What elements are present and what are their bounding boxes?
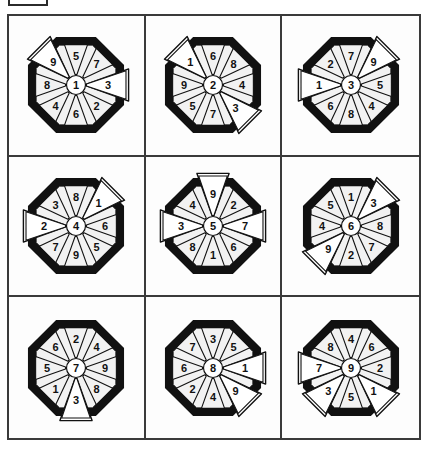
grid-cell-wheel-4[interactable]: 816597234	[9, 157, 146, 298]
petal-number-w: 5	[44, 362, 50, 374]
petal-number-e: 6	[102, 220, 108, 232]
petal-number-e: 8	[377, 220, 383, 232]
center-number: 3	[348, 79, 354, 91]
grid-cell-wheel-9[interactable]: 462153789	[282, 297, 419, 438]
petal-number-nw: 4	[189, 199, 196, 211]
petal-number-w: 7	[316, 362, 322, 374]
octagon-wheel-8[interactable]: 351942678	[157, 312, 269, 424]
petal-number-nw: 2	[327, 59, 333, 71]
petal-number-nw: 8	[327, 341, 333, 353]
petal-number-n: 9	[210, 188, 216, 200]
petal-number-e: 4	[239, 79, 246, 91]
petal-number-n: 7	[348, 50, 354, 62]
center-number: 6	[348, 220, 354, 232]
petal-number-ne: 9	[370, 57, 376, 69]
petal-number-w: 8	[44, 79, 50, 91]
petal-number-n: 2	[73, 333, 79, 345]
petal-number-s: 6	[73, 108, 79, 120]
petal-number-sw: 4	[53, 100, 60, 112]
petal-number-se: 2	[94, 100, 100, 112]
petal-number-w: 2	[41, 220, 47, 232]
diagram-grid: 5732648916843759127954861238165972349276…	[7, 14, 421, 440]
octagon-wheel-6[interactable]: 138729456	[295, 170, 407, 282]
petal-number-n: 3	[210, 333, 216, 345]
petal-number-sw: 1	[53, 382, 59, 394]
octagon-wheel-9[interactable]: 462153789	[295, 312, 407, 424]
octagon-wheel-5[interactable]: 927618345	[157, 170, 269, 282]
petal-number-ne: 3	[370, 197, 376, 209]
petal-number-nw: 5	[327, 199, 333, 211]
grid-cell-wheel-8[interactable]: 351942678	[146, 297, 283, 438]
petal-number-n: 4	[348, 333, 355, 345]
grid-cell-wheel-1[interactable]: 573264891	[9, 16, 146, 157]
octagon-wheel-svg: 816597234	[20, 170, 132, 282]
octagon-wheel-svg: 684375912	[157, 29, 269, 141]
petal-number-s: 8	[348, 108, 354, 120]
petal-number-e: 3	[105, 79, 111, 91]
petal-number-se: 8	[94, 382, 100, 394]
petal-number-e: 1	[242, 362, 248, 374]
grid-cell-wheel-6[interactable]: 138729456	[282, 157, 419, 298]
petal-number-s: 5	[348, 391, 354, 403]
petal-number-sw: 2	[189, 382, 195, 394]
grid-cell-wheel-2[interactable]: 684375912	[146, 16, 283, 157]
center-number: 4	[73, 220, 80, 232]
octagon-wheel-svg: 795486123	[295, 29, 407, 141]
petal-number-s: 3	[73, 394, 79, 406]
petal-number-se: 4	[368, 100, 375, 112]
petal-number-sw: 5	[189, 100, 195, 112]
petal-number-nw: 6	[53, 341, 59, 353]
petal-number-ne: 8	[230, 59, 236, 71]
petal-number-s: 9	[73, 249, 79, 261]
petal-number-w: 6	[181, 362, 187, 374]
petal-number-n: 1	[348, 191, 354, 203]
center-number: 5	[210, 220, 216, 232]
petal-number-e: 9	[102, 362, 108, 374]
grid-cell-wheel-5[interactable]: 927618345	[146, 157, 283, 298]
petal-number-s: 1	[210, 249, 216, 261]
petal-number-w: 3	[178, 220, 184, 232]
petal-number-n: 6	[210, 50, 216, 62]
petal-number-se: 5	[94, 240, 100, 252]
petal-number-se: 3	[233, 102, 239, 114]
petal-number-ne: 6	[368, 341, 374, 353]
petal-number-sw: 7	[53, 240, 59, 252]
petal-number-sw: 8	[189, 240, 195, 252]
petal-number-e: 5	[377, 79, 383, 91]
corner-marker-box	[8, 0, 48, 6]
octagon-wheel-1[interactable]: 573264891	[20, 29, 132, 141]
petal-number-n: 5	[73, 50, 79, 62]
petal-number-ne: 5	[230, 341, 236, 353]
center-number: 1	[73, 79, 79, 91]
petal-number-ne: 4	[94, 341, 101, 353]
petal-number-s: 4	[210, 391, 217, 403]
center-number: 9	[348, 362, 354, 374]
octagon-wheel-svg: 351942678	[157, 312, 269, 424]
petal-number-nw: 3	[53, 199, 59, 211]
octagon-wheel-svg: 573264891	[20, 29, 132, 141]
petal-number-n: 8	[73, 191, 79, 203]
petal-number-ne: 1	[96, 197, 102, 209]
grid-cell-wheel-7[interactable]: 249831567	[9, 297, 146, 438]
octagon-wheel-4[interactable]: 816597234	[20, 170, 132, 282]
petal-number-se: 7	[368, 240, 374, 252]
petal-number-ne: 7	[94, 59, 100, 71]
octagon-wheel-7[interactable]: 249831567	[20, 312, 132, 424]
octagon-wheel-2[interactable]: 684375912	[157, 29, 269, 141]
petal-number-sw: 9	[325, 243, 331, 255]
petal-number-sw: 6	[327, 100, 333, 112]
petal-number-w: 9	[181, 79, 187, 91]
grid-cell-wheel-3[interactable]: 795486123	[282, 16, 419, 157]
petal-number-s: 2	[348, 249, 354, 261]
petal-number-nw: 9	[51, 57, 57, 69]
petal-number-e: 2	[377, 362, 383, 374]
petal-number-s: 7	[210, 108, 216, 120]
petal-number-nw: 1	[187, 57, 193, 69]
center-number: 7	[73, 362, 79, 374]
center-number: 2	[210, 79, 216, 91]
octagon-wheel-svg: 138729456	[295, 170, 407, 282]
octagon-wheel-3[interactable]: 795486123	[295, 29, 407, 141]
octagon-wheel-svg: 927618345	[157, 170, 269, 282]
octagon-wheel-svg: 249831567	[20, 312, 132, 424]
octagon-wheel-svg: 462153789	[295, 312, 407, 424]
